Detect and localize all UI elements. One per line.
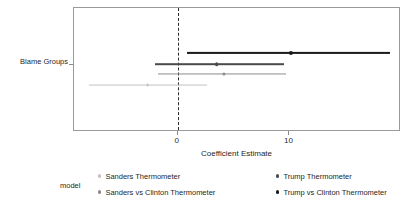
coefficient-estimate-point xyxy=(288,51,292,55)
legend-item-label: Trump Thermometer xyxy=(283,172,351,181)
x-axis-tick-10 xyxy=(288,131,289,135)
coefficient-estimate-point xyxy=(222,72,225,75)
coefficient-interval-row xyxy=(74,48,399,58)
legend-item[interactable]: Sanders vs Clinton Thermometer xyxy=(98,188,276,197)
legend-item-label: Sanders vs Clinton Thermometer xyxy=(105,188,215,197)
coefficient-plot-figure: Blame Groups 0 10 Coefficient Estimate m… xyxy=(0,0,409,207)
legend-item-label: Sanders Thermometer xyxy=(105,172,180,181)
x-axis-tick-label-0: 0 xyxy=(162,136,192,146)
legend-marker-dot-icon xyxy=(98,190,101,193)
legend-item[interactable]: Sanders Thermometer xyxy=(98,172,276,181)
legend-item-label: Trump vs Clinton Thermometer xyxy=(283,188,386,197)
legend-title: model xyxy=(60,181,80,190)
legend-item[interactable]: Trump Thermometer xyxy=(276,172,387,181)
confidence-interval-bar xyxy=(155,63,283,65)
coefficient-interval-row xyxy=(74,59,399,69)
legend-item[interactable]: Trump vs Clinton Thermometer xyxy=(276,188,387,197)
coefficient-estimate-point xyxy=(146,84,149,87)
coefficient-interval-row xyxy=(74,80,399,90)
legend: model Sanders ThermometerTrump Thermomet… xyxy=(60,168,405,204)
legend-entries: Sanders ThermometerTrump ThermometerSand… xyxy=(98,168,387,200)
legend-marker-dot-icon xyxy=(276,190,279,193)
legend-marker-dot-icon xyxy=(276,174,279,177)
x-axis-tick-label-10: 10 xyxy=(273,136,303,146)
coefficient-interval-row xyxy=(74,69,399,79)
plot-panel xyxy=(73,7,400,131)
plot-area xyxy=(74,8,399,130)
x-axis-tick-0 xyxy=(177,131,178,135)
y-axis-category-label: Blame Groups xyxy=(2,57,68,66)
x-axis-title: Coefficient Estimate xyxy=(73,149,400,158)
legend-marker-dot-icon xyxy=(98,174,101,177)
coefficient-estimate-point xyxy=(215,62,219,66)
